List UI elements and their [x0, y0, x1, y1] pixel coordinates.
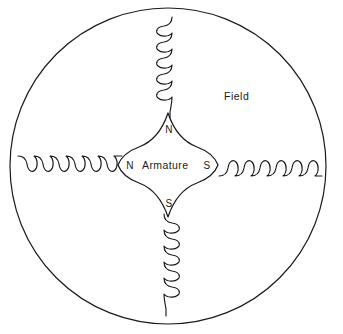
field-label: Field: [224, 90, 249, 102]
top-field-coil: [157, 17, 172, 120]
motor-cross-section-diagram: Field Armature N S N S: [0, 0, 343, 334]
right-field-coil: [219, 161, 322, 176]
motor-diagram-canvas: Field Armature N S N S: [0, 0, 343, 334]
pole-label-north-top: N: [165, 124, 173, 135]
pole-label-south-right: S: [204, 160, 211, 171]
bottom-field-coil: [164, 214, 179, 316]
left-field-coil: [18, 156, 122, 171]
armature-label: Armature: [142, 159, 188, 171]
pole-label-south-bottom: S: [166, 198, 173, 209]
pole-label-north-left: N: [126, 160, 134, 171]
